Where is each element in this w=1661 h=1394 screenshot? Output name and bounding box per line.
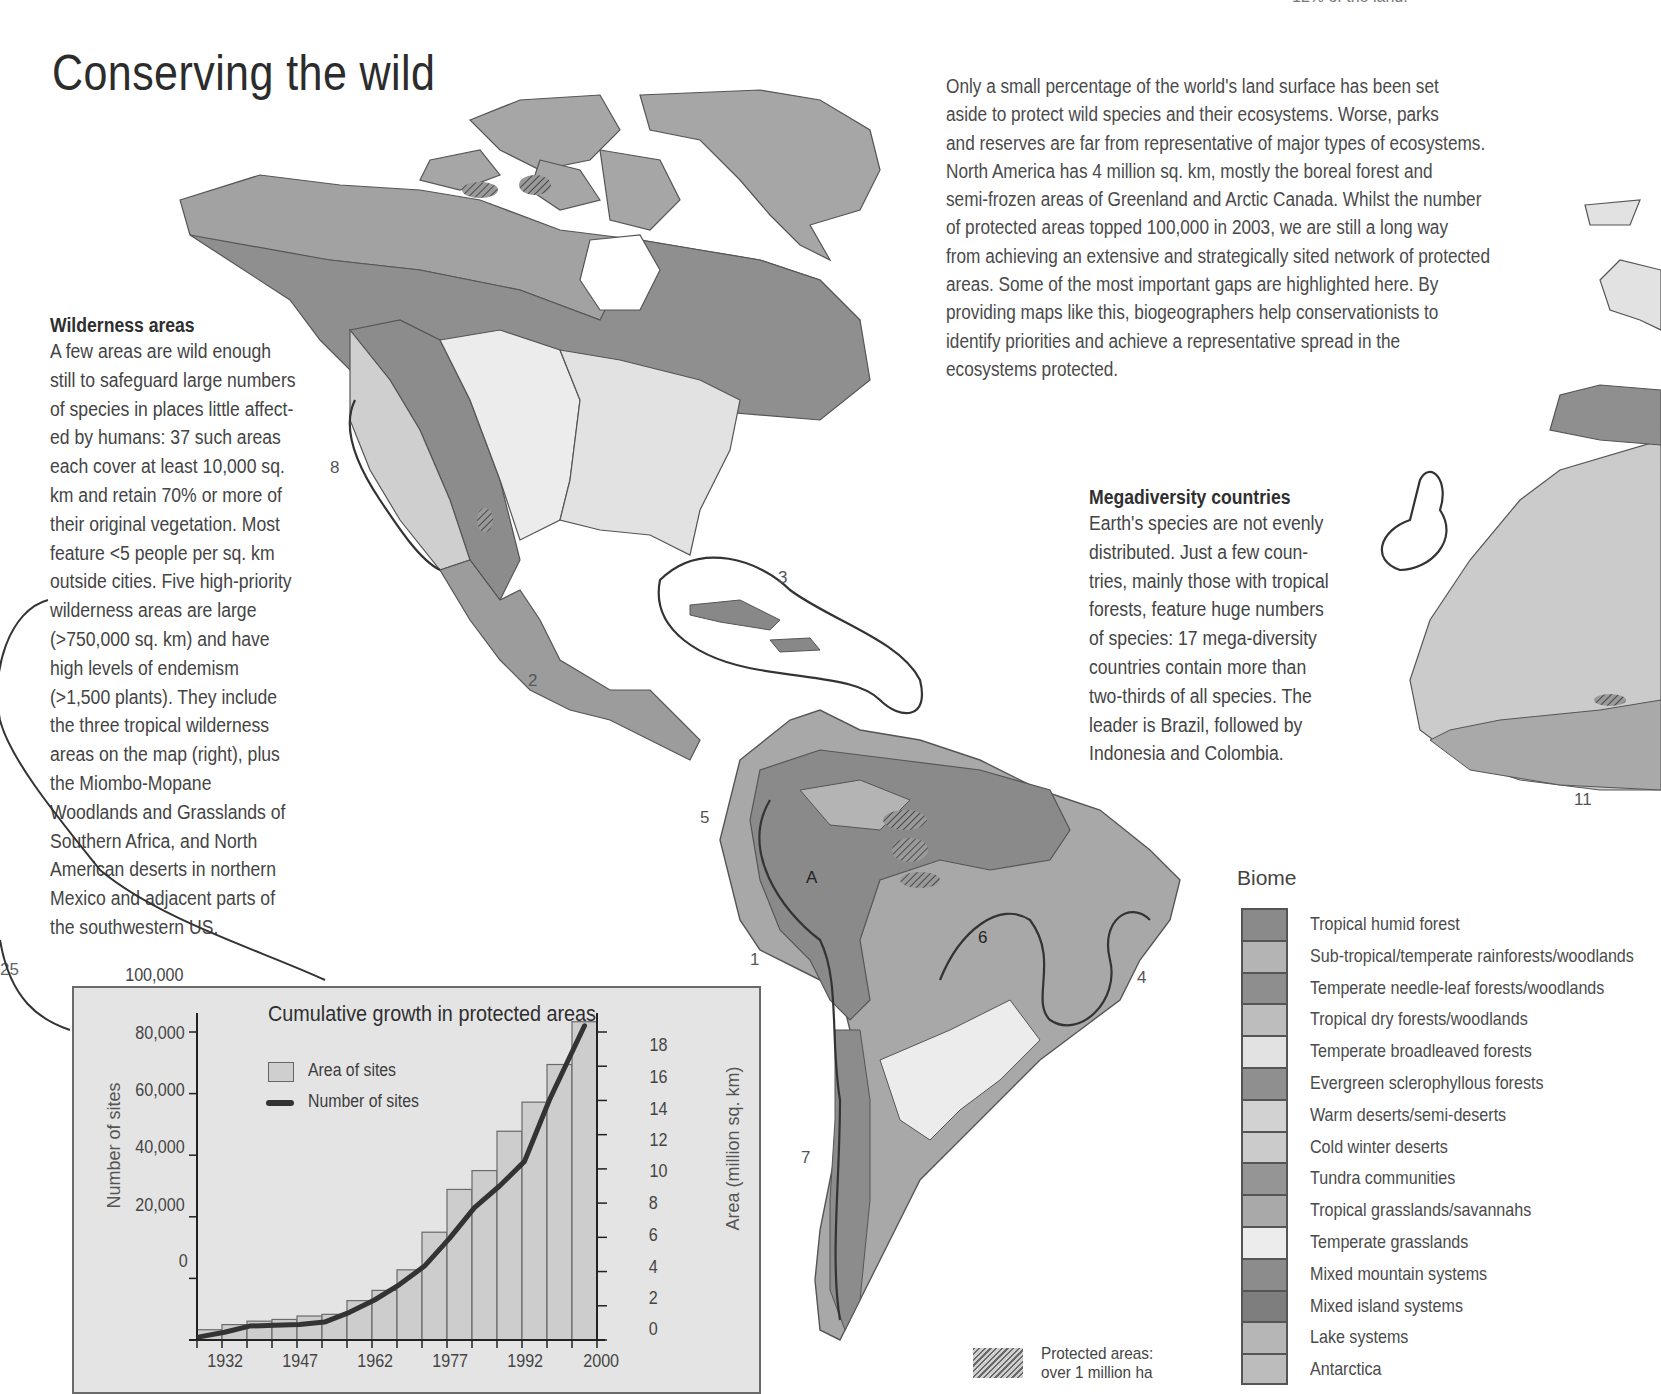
biome-label: Temperate grasslands — [1310, 1231, 1468, 1253]
wilderness-heading: Wilderness areas — [50, 314, 340, 337]
megadiversity-heading: Megadiversity countries — [1089, 486, 1371, 509]
biome-swatch — [1241, 1353, 1288, 1385]
biome-swatch — [1241, 908, 1288, 940]
biome-label: Mixed island systems — [1310, 1295, 1463, 1317]
biome-label: Sub-tropical/temperate rainforests/woodl… — [1310, 945, 1634, 967]
megadiversity-body: Earth's species are not evenly distribut… — [1089, 509, 1371, 768]
biome-label: Cold winter deserts — [1310, 1136, 1448, 1158]
biome-label: Tropical dry forests/woodlands — [1310, 1008, 1528, 1030]
hatch-swatch-icon — [973, 1348, 1023, 1378]
biome-legend-item: Mixed mountain systems — [1241, 1258, 1661, 1290]
biome-legend-item: Lake systems — [1241, 1321, 1661, 1353]
greenland-region — [640, 90, 880, 260]
megadiversity-section: Megadiversity countries Earth's species … — [1089, 486, 1371, 768]
area-bar — [572, 1022, 597, 1340]
map-label-6: 6 — [978, 928, 987, 948]
map-label-4: 4 — [1137, 968, 1146, 988]
biome-swatch — [1241, 1099, 1288, 1131]
biome-swatch — [1241, 1003, 1288, 1035]
biome-legend-item: Evergreen sclerophyllous forests — [1241, 1067, 1661, 1099]
area-bar — [547, 1065, 572, 1340]
biome-legend-item: Tundra communities — [1241, 1162, 1661, 1194]
biome-label: Tropical grasslands/savannahs — [1310, 1199, 1531, 1221]
biome-swatch — [1241, 1131, 1288, 1163]
biome-swatch — [1241, 1290, 1288, 1322]
biome-label: Temperate broadleaved forests — [1310, 1040, 1532, 1062]
biome-swatch — [1241, 940, 1288, 972]
biome-label: Warm deserts/semi-deserts — [1310, 1104, 1506, 1126]
biome-swatch — [1241, 972, 1288, 1004]
biome-swatch — [1241, 1194, 1288, 1226]
biome-legend-item: Mixed island systems — [1241, 1290, 1661, 1322]
biome-swatch — [1241, 1226, 1288, 1258]
map-label-2: 2 — [528, 671, 537, 691]
biome-label: Evergreen sclerophyllous forests — [1310, 1072, 1543, 1094]
biome-label: Tropical humid forest — [1310, 913, 1460, 935]
intro-paragraph: Only a small percentage of the world's l… — [946, 72, 1582, 383]
biome-label: Tundra communities — [1310, 1167, 1455, 1189]
y-tick: 100,000 — [125, 964, 183, 986]
biome-swatch — [1241, 1321, 1288, 1353]
area-bar — [497, 1131, 522, 1340]
iberia-region — [1550, 385, 1661, 445]
area-bar — [297, 1316, 322, 1340]
biome-legend-item: Temperate needle-leaf forests/woodlands — [1241, 972, 1661, 1004]
map-label-1: 1 — [750, 950, 759, 970]
hotspot-caribbean — [659, 558, 922, 714]
protected-areas-label: Protected areas: over 1 million ha — [1041, 1344, 1185, 1382]
biome-legend-item: Tropical dry forests/woodlands — [1241, 1003, 1661, 1035]
biome-legend-heading: Biome — [1237, 866, 1297, 890]
biome-legend-item: Tropical grasslands/savannahs — [1241, 1194, 1661, 1226]
mexico-central-america — [440, 560, 700, 760]
biome-label: Temperate needle-leaf forests/woodlands — [1310, 977, 1604, 999]
map-label-7: 7 — [801, 1148, 810, 1168]
biome-legend-item: Warm deserts/semi-deserts — [1241, 1099, 1661, 1131]
chart-plot-area — [74, 988, 763, 1394]
map-label-8: 8 — [330, 458, 339, 478]
biome-swatch — [1241, 1067, 1288, 1099]
biome-label: Mixed mountain systems — [1310, 1263, 1487, 1285]
area-bar — [397, 1270, 422, 1340]
biome-legend-item: Cold winter deserts — [1241, 1131, 1661, 1163]
biome-label: Lake systems — [1310, 1326, 1408, 1348]
biome-legend-item: Tropical humid forest — [1241, 908, 1661, 940]
biome-label: Antarctica — [1310, 1358, 1382, 1380]
map-label-5: 5 — [700, 808, 709, 828]
hotspot-canary — [1382, 472, 1447, 570]
cumulative-growth-chart: Cumulative growth in protected areas Are… — [72, 986, 761, 1394]
page-title: Conserving the wild — [52, 44, 435, 102]
page-fragment-text: 12% of the land. — [1292, 0, 1408, 6]
map-label-11: 11 — [1574, 790, 1592, 810]
biome-legend-item: Sub-tropical/temperate rainforests/woodl… — [1241, 940, 1661, 972]
map-label-a: A — [806, 868, 817, 888]
biome-swatch — [1241, 1035, 1288, 1067]
biome-swatch — [1241, 1162, 1288, 1194]
biome-legend-item: Antarctica — [1241, 1353, 1661, 1385]
biome-swatch — [1241, 1258, 1288, 1290]
biome-legend-item: Temperate broadleaved forests — [1241, 1035, 1661, 1067]
biome-legend-item: Temperate grasslands — [1241, 1226, 1661, 1258]
map-label-3: 3 — [778, 568, 787, 588]
